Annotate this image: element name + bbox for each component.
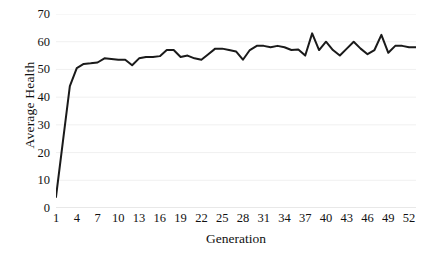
y-tick-label: 30 bbox=[26, 119, 50, 131]
plot-area bbox=[56, 14, 416, 208]
y-tick-label: 60 bbox=[26, 36, 50, 48]
x-axis-tick-labels: 147101316192225283134374043464952 bbox=[56, 211, 416, 229]
y-tick-label: 50 bbox=[26, 63, 50, 75]
y-tick-label: 40 bbox=[26, 91, 50, 103]
x-axis-title: Generation bbox=[56, 231, 416, 247]
gridlines bbox=[56, 14, 416, 208]
line-chart: Average Health 010203040506070 147101316… bbox=[0, 0, 425, 267]
data-series-line bbox=[56, 33, 416, 197]
y-tick-label: 10 bbox=[26, 174, 50, 186]
plot-svg bbox=[56, 14, 416, 208]
y-tick-label: 70 bbox=[26, 8, 50, 20]
y-tick-label: 20 bbox=[26, 147, 50, 159]
x-tick-label: 52 bbox=[397, 211, 421, 225]
y-axis-tick-labels: 010203040506070 bbox=[26, 0, 50, 267]
